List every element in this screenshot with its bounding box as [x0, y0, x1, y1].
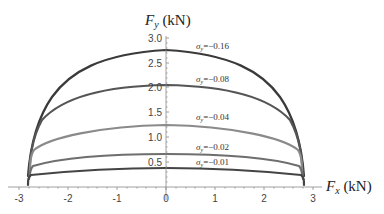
force-envelope-chart: -3 -2 -1 0 1 2 3 0.5 1.0 1.5 2.0 2.5 3.0…	[0, 0, 384, 214]
x-tick-label: -1	[113, 193, 122, 204]
y-tick-label: 2.0	[148, 82, 162, 93]
y-tick-label: 0.5	[148, 157, 162, 168]
x-axis	[8, 187, 322, 190]
y-tick-label: 2.5	[148, 58, 162, 69]
annotation-sigma-0.02: σy=−0.02	[196, 142, 229, 153]
annotation-sigma-0.01: σy=−0.01	[196, 157, 229, 168]
x-tick-label: -3	[15, 193, 24, 204]
x-tick-label: -2	[64, 193, 73, 204]
y-tick-label: 1.5	[148, 107, 162, 118]
x-axis-label: Fx (kN)	[325, 178, 372, 196]
annotation-sigma-0.04: σy=−0.04	[196, 112, 230, 123]
annotation-sigma-0.16: σy=−0.16	[196, 41, 230, 52]
annotation-sigma-0.08: σy=−0.08	[196, 74, 230, 85]
y-tick-labels: 0.5 1.0 1.5 2.0 2.5 3.0	[148, 33, 162, 168]
x-tick-label: 1	[212, 193, 218, 204]
x-tick-label: 3	[310, 193, 316, 204]
x-tick-label: 2	[261, 193, 267, 204]
x-tick-labels: -3 -2 -1 0 1 2 3	[15, 193, 317, 204]
y-tick-label: 1.0	[148, 132, 162, 143]
x-tick-label: 0	[163, 193, 169, 204]
y-axis-label: Fy (kN)	[144, 12, 191, 30]
y-tick-label: 3.0	[148, 33, 162, 44]
y-axis	[166, 36, 169, 200]
